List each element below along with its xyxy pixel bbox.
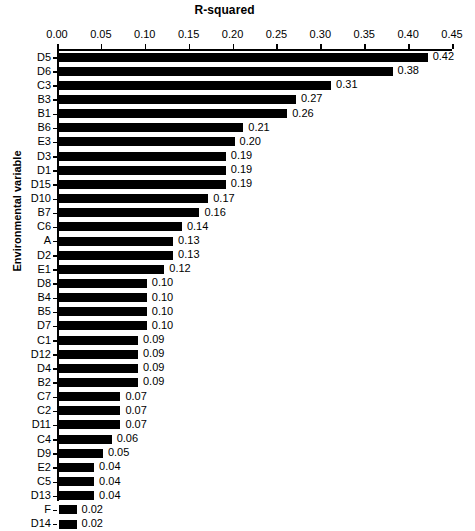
bar-D10 (59, 194, 208, 203)
y-tick-mark-28 (53, 453, 57, 455)
bar-C6 (59, 222, 182, 231)
x-tick-mark-5 (276, 44, 278, 49)
y-category-label-B7: B7 (38, 207, 51, 218)
y-tick-mark-0 (53, 57, 57, 59)
y-tick-mark-32 (53, 510, 57, 512)
bar-value-label: 0.02 (82, 504, 103, 515)
bar-C2 (59, 406, 120, 415)
y-category-label-B4: B4 (38, 292, 51, 303)
y-tick-mark-3 (53, 99, 57, 101)
bar-row: 0.10 (59, 276, 454, 290)
x-tick-label-1: 0.05 (90, 28, 111, 40)
x-tick-mark-7 (364, 44, 366, 49)
bar-D11 (59, 420, 120, 429)
bar-row: 0.10 (59, 305, 454, 319)
y-category-label-B1: B1 (38, 108, 51, 119)
bar-D14 (59, 520, 77, 529)
y-category-label-B5: B5 (38, 306, 51, 317)
bar-row: 0.02 (59, 517, 454, 531)
y-tick-mark-19 (53, 326, 57, 328)
bar-value-label: 0.10 (152, 306, 173, 317)
bar-D2 (59, 251, 173, 260)
bar-row: 0.05 (59, 446, 454, 460)
y-tick-mark-8 (53, 170, 57, 172)
bar-row: 0.09 (59, 333, 454, 347)
y-category-label-D9: D9 (37, 448, 51, 459)
bar-value-label: 0.19 (231, 150, 252, 161)
bar-row: 0.13 (59, 234, 454, 248)
y-category-label-C7: C7 (37, 391, 51, 402)
bar-value-label: 0.09 (143, 348, 164, 359)
y-tick-mark-5 (53, 128, 57, 130)
y-tick-mark-10 (53, 199, 57, 201)
y-tick-mark-24 (53, 397, 57, 399)
x-tick-label-5: 0.25 (266, 28, 287, 40)
y-tick-mark-15 (53, 269, 57, 271)
bar-value-label: 0.04 (99, 461, 120, 472)
x-tick-label-7: 0.35 (354, 28, 375, 40)
bar-B1 (59, 109, 287, 118)
bar-row: 0.09 (59, 361, 454, 375)
y-category-label-B2: B2 (38, 377, 51, 388)
bar-B5 (59, 307, 147, 316)
bar-value-label: 0.16 (204, 207, 225, 218)
bar-E2 (59, 463, 94, 472)
y-category-label-B3: B3 (38, 94, 51, 105)
bars-container: 0.420.380.310.270.260.210.200.190.190.19… (59, 49, 452, 501)
bar-row: 0.20 (59, 135, 454, 149)
y-tick-mark-31 (53, 496, 57, 498)
bar-D7 (59, 321, 147, 330)
y-tick-mark-23 (53, 382, 57, 384)
bar-row: 0.19 (59, 149, 454, 163)
bar-F (59, 505, 77, 514)
bar-row: 0.04 (59, 489, 454, 503)
bar-D8 (59, 279, 147, 288)
bar-row: 0.10 (59, 319, 454, 333)
x-tick-mark-3 (189, 44, 191, 49)
bar-D13 (59, 491, 94, 500)
y-tick-mark-6 (53, 142, 57, 144)
y-tick-mark-16 (53, 283, 57, 285)
bar-value-label: 0.09 (143, 334, 164, 345)
x-tick-mark-2 (145, 44, 147, 49)
bar-B4 (59, 293, 147, 302)
bar-value-label: 0.10 (152, 320, 173, 331)
y-category-label-E1: E1 (38, 264, 51, 275)
bar-C5 (59, 477, 94, 486)
bar-D6 (59, 67, 393, 76)
y-category-label-A: A (44, 235, 51, 246)
bar-row: 0.07 (59, 418, 454, 432)
plot-area: 0.420.380.310.270.260.210.200.190.190.19… (57, 49, 452, 501)
y-category-label-F: F (44, 504, 51, 515)
bar-value-label: 0.20 (240, 136, 261, 147)
bar-value-label: 0.07 (125, 419, 146, 430)
bar-row: 0.06 (59, 432, 454, 446)
bar-value-label: 0.09 (143, 376, 164, 387)
y-category-label-C5: C5 (37, 476, 51, 487)
x-axis-tick-labels: 0.000.050.100.150.200.250.300.350.400.45 (0, 28, 475, 42)
y-category-label-D14: D14 (31, 518, 51, 529)
bar-value-label: 0.42 (433, 51, 454, 62)
y-category-label-C1: C1 (37, 335, 51, 346)
bar-row: 0.09 (59, 347, 454, 361)
x-tick-mark-6 (320, 44, 322, 49)
y-tick-mark-2 (53, 85, 57, 87)
y-category-label-D1: D1 (37, 165, 51, 176)
bar-value-label: 0.26 (292, 108, 313, 119)
bar-value-label: 0.13 (178, 235, 199, 246)
x-tick-label-9: 0.45 (441, 28, 462, 40)
y-category-label-E3: E3 (38, 136, 51, 147)
bar-A (59, 237, 173, 246)
y-category-label-D10: D10 (31, 193, 51, 204)
bar-D1 (59, 166, 226, 175)
y-category-label-D12: D12 (31, 349, 51, 360)
y-category-label-C2: C2 (37, 405, 51, 416)
y-category-label-D2: D2 (37, 250, 51, 261)
bar-B7 (59, 208, 199, 217)
bar-row: 0.02 (59, 503, 454, 517)
bar-row: 0.07 (59, 404, 454, 418)
y-tick-mark-22 (53, 368, 57, 370)
bar-row: 0.26 (59, 107, 454, 121)
y-tick-mark-30 (53, 482, 57, 484)
